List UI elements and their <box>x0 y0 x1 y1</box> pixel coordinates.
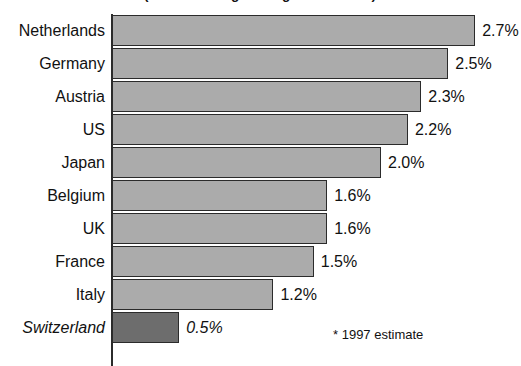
category-label: Belgium <box>47 179 105 212</box>
bar-value-label: 2.3% <box>428 80 464 113</box>
category-label: France <box>55 245 105 278</box>
bar-value-label: 2.2% <box>415 113 451 146</box>
bar-row: US2.2% <box>0 113 521 146</box>
category-label: Switzerland <box>22 311 105 344</box>
bar-value-label: 1.5% <box>321 245 357 278</box>
bar <box>112 246 314 277</box>
category-label: UK <box>83 212 105 245</box>
bar-value-label: 0.5% <box>186 311 222 344</box>
category-label: US <box>83 113 105 146</box>
bar-row: Belgium1.6% <box>0 179 521 212</box>
category-label: Italy <box>76 278 105 311</box>
category-label: Germany <box>39 47 105 80</box>
bar-value-label: 2.7% <box>482 14 518 47</box>
category-label: Japan <box>61 146 105 179</box>
bar-value-label: 1.6% <box>334 179 370 212</box>
bar-chart-plot-area: Netherlands2.7%Germany2.5%Austria2.3%US2… <box>0 0 521 366</box>
bar <box>112 15 475 46</box>
bar <box>112 48 448 79</box>
bar-value-label: 1.2% <box>280 278 316 311</box>
bar <box>112 81 421 112</box>
category-label: Austria <box>55 80 105 113</box>
bar-row: Italy1.2% <box>0 278 521 311</box>
bar <box>112 180 327 211</box>
bar <box>112 279 273 310</box>
bar <box>112 114 408 145</box>
chart-footnote: * 1997 estimate <box>333 327 423 342</box>
bar-row: Austria2.3% <box>0 80 521 113</box>
bar-row: Netherlands2.7% <box>0 14 521 47</box>
bar-value-label: 2.5% <box>455 47 491 80</box>
bar-value-label: 2.0% <box>388 146 424 179</box>
bar <box>112 312 179 343</box>
category-label: Netherlands <box>19 14 105 47</box>
bar-row: Switzerland0.5% <box>0 311 521 344</box>
bar-row: UK1.6% <box>0 212 521 245</box>
bar-row: France1.5% <box>0 245 521 278</box>
bar-row: Japan2.0% <box>0 146 521 179</box>
bar-value-label: 1.6% <box>334 212 370 245</box>
bar-row: Germany2.5% <box>0 47 521 80</box>
bar <box>112 147 381 178</box>
bar <box>112 213 327 244</box>
